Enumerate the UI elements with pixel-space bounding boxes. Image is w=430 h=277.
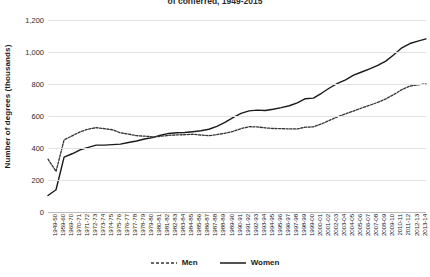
- x-tick-label: 1985-86: [195, 214, 202, 236]
- x-tick-label: 1983-84: [179, 214, 186, 236]
- legend-label-men: Men: [182, 258, 198, 267]
- x-tick-label: 2012-13: [413, 214, 420, 236]
- x-tick-label: 1959-60: [59, 214, 66, 236]
- gridline: [48, 116, 426, 117]
- y-tick-label: 600: [31, 112, 44, 121]
- x-tick-label: 2010-11: [396, 214, 403, 236]
- plot-area: [48, 20, 426, 212]
- y-axis-ticks: 02004006008001,0001,200: [14, 0, 46, 213]
- gridline: [48, 180, 426, 181]
- x-tick-label: 2001-02: [324, 214, 331, 236]
- x-tick-label: 2002-03: [332, 214, 339, 236]
- x-tick-label: 1986-87: [203, 214, 210, 236]
- x-tick-label: 1974-75: [107, 214, 114, 236]
- x-tick-label: 2005-06: [356, 214, 363, 236]
- x-tick-label: 1991-92: [244, 214, 251, 236]
- x-tick-label: 1969-70: [67, 214, 74, 236]
- y-tick-label: 800: [31, 80, 44, 89]
- x-tick-label: 1977-78: [131, 214, 138, 236]
- legend-item-men[interactable]: Men: [151, 258, 198, 267]
- x-tick-label: 2013-14: [421, 214, 428, 236]
- x-tick-label: 1971-72: [83, 214, 90, 236]
- x-tick-label: 1989-90: [228, 214, 235, 236]
- gridline: [48, 148, 426, 149]
- y-tick-label: 1,000: [25, 48, 44, 57]
- legend-item-women[interactable]: Women: [220, 258, 280, 267]
- x-tick-label: 1978-79: [139, 214, 146, 236]
- chart-legend: Men Women: [0, 258, 430, 267]
- y-tick-label: 400: [31, 144, 44, 153]
- x-tick-label: 1970-71: [75, 214, 82, 236]
- dashed-line-icon: [151, 260, 177, 266]
- x-tick-label: 1993-94: [260, 214, 267, 236]
- x-tick-label: 2007-08: [372, 214, 379, 236]
- x-tick-label: 2000-01: [316, 214, 323, 236]
- x-tick-label: 2009-10: [388, 214, 395, 236]
- solid-line-icon: [220, 260, 246, 266]
- x-tick-label: 1979-80: [147, 214, 154, 236]
- x-tick-label: 1972-73: [91, 214, 98, 236]
- x-tick-label: 1949-50: [51, 214, 58, 236]
- y-axis-title-text: Number of degrees (thousands): [4, 44, 13, 168]
- x-tick-label: 1998-99: [300, 214, 307, 236]
- x-tick-label: 1995-96: [276, 214, 283, 236]
- x-tick-label: 1992-93: [252, 214, 259, 236]
- x-tick-label: 1987-88: [211, 214, 218, 236]
- x-tick-label: 1997-98: [292, 214, 299, 236]
- gridline: [48, 84, 426, 85]
- x-tick-label: 1973-74: [99, 214, 106, 236]
- x-tick-label: 1980-81: [155, 214, 162, 236]
- x-tick-label: 2006-07: [364, 214, 371, 236]
- y-axis-title: Number of degrees (thousands): [1, 0, 15, 212]
- x-tick-label: 1982-83: [171, 214, 178, 236]
- x-tick-label: 2008-09: [380, 214, 387, 236]
- x-tick-label: 1990-91: [236, 214, 243, 236]
- x-tick-label: 1999-00: [308, 214, 315, 236]
- y-tick-label: 200: [31, 176, 44, 185]
- x-tick-label: 1994-95: [268, 214, 275, 236]
- x-tick-label: 1975-76: [115, 214, 122, 236]
- line-chart: of conferred, 1949-2015 Number of degree…: [0, 0, 430, 277]
- x-axis-ticks: 1949-501959-601969-701970-711971-721972-…: [48, 213, 426, 255]
- x-tick-label: 1984-85: [187, 214, 194, 236]
- x-tick-label: 1976-77: [123, 214, 130, 236]
- x-tick-label: 2003-04: [340, 214, 347, 236]
- x-tick-label: 2011-12: [404, 214, 411, 236]
- gridline: [48, 20, 426, 21]
- series-line-women: [48, 39, 426, 196]
- y-tick-label: 0: [40, 208, 44, 217]
- x-tick-label: 2004-05: [348, 214, 355, 236]
- x-tick-label: 1988-89: [219, 214, 226, 236]
- series-line-men: [48, 84, 426, 171]
- gridline: [48, 52, 426, 53]
- y-tick-label: 1,200: [25, 16, 44, 25]
- chart-title: of conferred, 1949-2015: [0, 0, 430, 6]
- legend-label-women: Women: [251, 258, 280, 267]
- x-tick-label: 1981-82: [163, 214, 170, 236]
- x-tick-label: 1996-97: [284, 214, 291, 236]
